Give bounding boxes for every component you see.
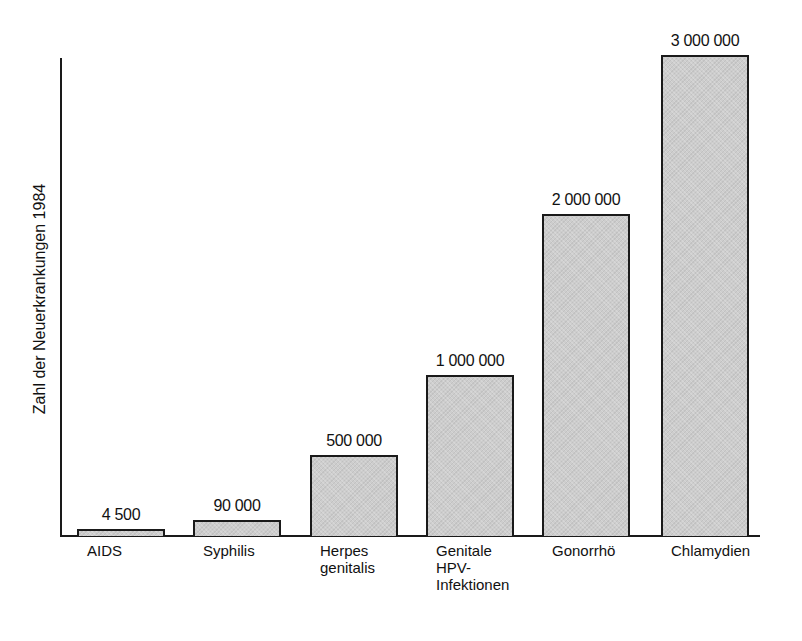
bar-value-label: 3 000 000 [671,32,739,50]
x-category-label: AIDS [87,542,122,559]
bar-syphilis [193,520,281,536]
x-category-label: Syphilis [203,542,255,559]
y-axis-label: Zahl der Neuerkrankungen 1984 [31,184,49,414]
x-category-label: Herpes genitalis [320,542,375,576]
bar-chlamydien [661,55,749,536]
bar-aids [77,529,165,536]
bar-value-label: 1 000 000 [436,352,504,370]
bar-value-label: 500 000 [326,432,382,450]
bar-genitale-hpv-infektionen [426,375,514,536]
x-axis-line [60,535,760,537]
bar-value-label: 4 500 [102,506,141,524]
bar-value-label: 2 000 000 [552,191,620,209]
bar-chart: Zahl der Neuerkrankungen 1984 4 500AIDS9… [0,0,802,641]
x-category-label: Chlamydien [671,542,750,559]
bar-value-label: 90 000 [213,497,260,515]
x-category-label: Gonorrhö [552,542,615,559]
bar-gonorrh- [542,214,630,536]
bar-herpes-genitalis [310,455,398,536]
x-category-label: Genitale HPV- Infektionen [436,542,509,593]
y-axis-line [60,58,62,537]
